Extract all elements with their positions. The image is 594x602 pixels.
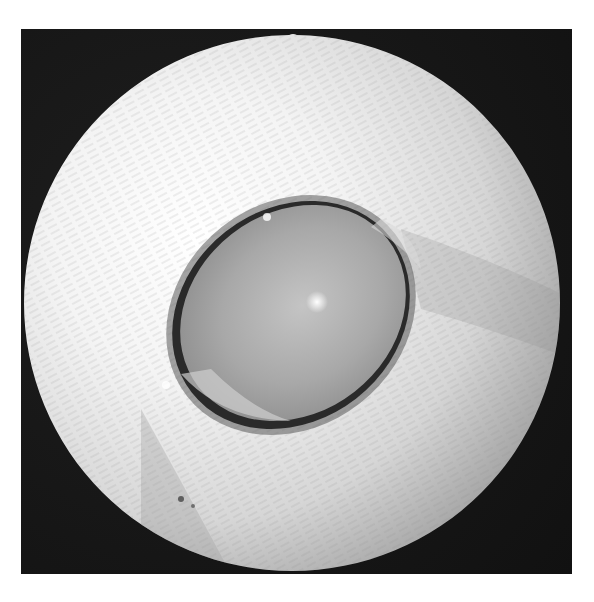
circular-vignette	[21, 29, 572, 574]
photo-frame	[21, 29, 572, 574]
eye-photograph	[21, 29, 572, 574]
specular-highlight	[306, 291, 328, 313]
